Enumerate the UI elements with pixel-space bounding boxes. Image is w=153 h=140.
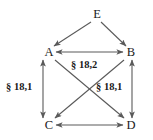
node-label-C: C [42,119,56,132]
edge-label-center-top: § 18,2 [71,60,97,71]
node-label-A: A [42,46,56,59]
node-label-B: B [124,46,138,59]
edge-E-B [101,22,126,46]
node-label-D: D [124,119,138,132]
diagram-canvas: E A B C D § 18,1 § 18,2 § 18,1 [0,0,153,140]
edge-E-A [54,22,91,46]
edge-label-center-right: § 18,1 [96,82,122,93]
edge-label-left: § 18,1 [6,82,32,93]
node-label-E: E [90,8,104,21]
